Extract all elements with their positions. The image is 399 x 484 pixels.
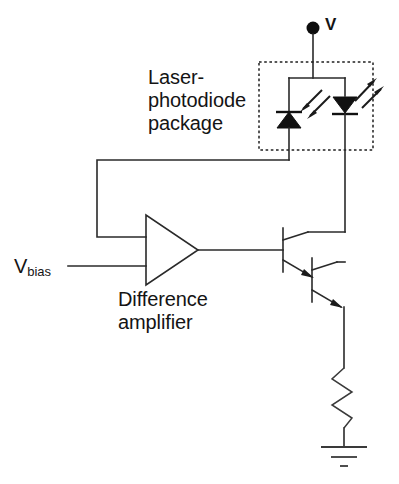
photodiode-feedback-wire [97,160,289,237]
vbias-label-subscript: bias [27,264,51,279]
photodiode-triangle [277,112,301,128]
package-label-line3: package [148,112,223,134]
laserdiode-triangle [333,97,357,113]
emitter-resistor [332,368,352,428]
supply-terminal-dot [307,22,320,35]
package-label: Laser- photodiode package [148,66,246,136]
vbias-label-main: V [14,255,27,277]
circuit-diagram-canvas: V Laser- photodiode package Vbias Differ… [0,0,399,484]
vbias-label: Vbias [14,255,51,279]
difference-amplifier-label: Difference amplifier [118,288,208,334]
q2-emitter-arrowhead [330,299,343,308]
q1-collector-lead [283,232,308,240]
difference-amplifier-label-line1: Difference [118,288,208,310]
q2-collector-lead [312,262,337,270]
laser-photodiode-package-outline [259,62,373,150]
supply-voltage-label: V [325,15,336,35]
package-label-line1: Laser- [148,66,204,88]
difference-amplifier-label-line2: amplifier [118,311,193,333]
difference-amplifier-triangle [146,215,198,285]
package-label-line2: photodiode [148,89,246,111]
